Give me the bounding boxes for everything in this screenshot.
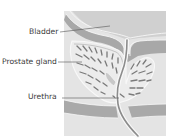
urethra-label: Urethra: [28, 93, 57, 101]
prostate-anatomy-diagram: Bladder Prostate gland Urethra: [0, 0, 170, 139]
bladder-label: Bladder: [29, 28, 58, 36]
anatomy-illustration: [0, 0, 170, 139]
prostate-gland-label: Prostate gland: [2, 58, 57, 66]
